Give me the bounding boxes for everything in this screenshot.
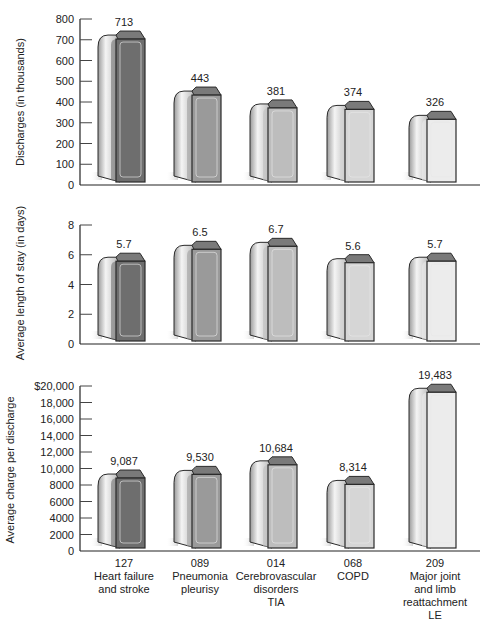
y-tick-label: 100: [56, 158, 74, 170]
x-category-label-line: LE: [390, 609, 480, 619]
bar: 6.7: [242, 223, 297, 341]
y-tick-label: 8000: [50, 479, 74, 491]
x-category-label: 209Major jointand limbreattachmentLE: [390, 557, 480, 619]
chart-panel-2: 02468Average length of stay (in days)5.7…: [14, 206, 480, 361]
bar: 9,530: [166, 451, 221, 548]
x-category-label-line: reattachment: [390, 596, 480, 609]
y-tick-label: 6: [68, 249, 74, 261]
bar-value-label: 9,087: [110, 455, 138, 467]
y-tick-label: 12,000: [40, 446, 74, 458]
bar: 10,684: [242, 442, 297, 548]
bar: 713: [90, 16, 145, 182]
bar: 9,087: [90, 455, 145, 548]
y-tick-label: 200: [56, 138, 74, 150]
y-tick-label: 2000: [50, 529, 74, 541]
bar-value-label: 326: [426, 96, 444, 108]
bar-value-label: 6.5: [192, 226, 207, 238]
bar-value-label: 5.7: [116, 238, 131, 250]
chart-canvas: 0100200300400500600700800Discharges (in …: [0, 0, 503, 619]
y-tick-label: 4000: [50, 512, 74, 524]
bar-value-label: 5.7: [427, 238, 442, 250]
chart-panel-3: 0200040006000800010,00012,00014,00016,00…: [4, 369, 480, 557]
y-tick-label: 8: [68, 219, 74, 231]
y-tick-label: 800: [56, 13, 74, 25]
chart-panel-1: 0100200300400500600700800Discharges (in …: [14, 13, 480, 191]
y-tick-label: 300: [56, 117, 74, 129]
bar-value-label: 19,483: [418, 369, 452, 381]
y-tick-label: 600: [56, 55, 74, 67]
x-category-label: 068COPD: [308, 557, 398, 583]
x-category-label-line: 209: [390, 557, 480, 570]
y-tick-label: 14,000: [40, 430, 74, 442]
y-tick-label: $20,000: [34, 380, 74, 392]
x-category-label-line: TIA: [231, 596, 321, 609]
bar: 443: [166, 72, 221, 182]
bar: 5.6: [319, 240, 374, 341]
bar-value-label: 5.6: [345, 240, 360, 252]
x-category-label-line: Major joint: [390, 570, 480, 583]
y-tick-label: 0: [68, 338, 74, 350]
y-tick-label: 2: [68, 308, 74, 320]
y-tick-label: 4: [68, 279, 74, 291]
y-tick-label: 6000: [50, 496, 74, 508]
bar: 5.7: [90, 238, 145, 341]
bar-value-label: 6.7: [268, 223, 283, 235]
bar: 381: [242, 85, 297, 182]
y-tick-label: 400: [56, 96, 74, 108]
bar-value-label: 374: [344, 86, 362, 98]
bar-value-label: 9,530: [186, 451, 214, 463]
y-tick-label: 500: [56, 75, 74, 87]
bar: 5.7: [401, 238, 456, 341]
bar: 19,483: [401, 369, 456, 548]
x-category-label-line: 068: [308, 557, 398, 570]
bar: 6.5: [166, 226, 221, 341]
bar: 8,314: [319, 461, 374, 548]
y-tick-label: 16,000: [40, 413, 74, 425]
y-axis-title: Average length of stay (in days): [14, 206, 26, 361]
y-tick-label: 700: [56, 34, 74, 46]
x-category-label-line: COPD: [308, 570, 398, 583]
bar-value-label: 10,684: [259, 442, 293, 454]
y-tick-label: 0: [68, 545, 74, 557]
y-tick-label: 10,000: [40, 463, 74, 475]
bar: 374: [319, 86, 374, 182]
y-tick-label: 18,000: [40, 397, 74, 409]
bar-value-label: 381: [267, 85, 285, 97]
y-axis-title: Discharges (in thousands): [14, 38, 26, 166]
bar-value-label: 713: [115, 16, 133, 28]
bar-value-label: 8,314: [339, 461, 367, 473]
y-tick-label: 0: [68, 179, 74, 191]
x-category-label-line: disorders: [231, 583, 321, 596]
y-axis-title: Average charge per discharge: [4, 396, 16, 543]
x-category-label-line: and limb: [390, 583, 480, 596]
bar-value-label: 443: [191, 72, 209, 84]
bar: 326: [401, 96, 456, 182]
